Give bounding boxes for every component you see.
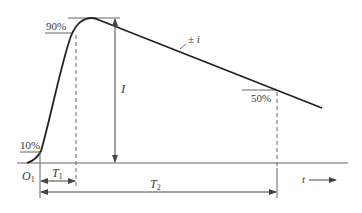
- curve-label-leader: [180, 44, 186, 49]
- time-axis-label: t: [302, 174, 305, 185]
- origin-label-sub: 1: [31, 175, 35, 184]
- t2-label-main: T: [150, 177, 157, 191]
- amplitude-label: I: [121, 82, 125, 95]
- curve-label: ± i: [188, 34, 200, 45]
- t2-label-sub: 2: [157, 183, 161, 192]
- origin-label-main: O: [22, 169, 31, 183]
- t1-label-main: T: [52, 166, 59, 180]
- current-waveform-curve: [27, 18, 322, 163]
- t1-label: T1: [52, 167, 63, 181]
- origin-label: O1: [22, 170, 35, 184]
- t2-label: T2: [150, 178, 161, 192]
- waveform-diagram: 90% 10% 50% ± i I O1 T1 T2 t: [0, 0, 362, 213]
- t1-label-sub: 1: [59, 172, 63, 181]
- fifty-percent-label: 50%: [251, 93, 271, 104]
- ten-percent-label: 10%: [20, 140, 40, 151]
- ninety-percent-label: 90%: [46, 21, 66, 32]
